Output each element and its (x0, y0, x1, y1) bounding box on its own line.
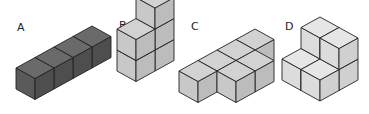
option-a-blocks (16, 26, 111, 100)
option-b: B (117, 0, 174, 82)
option-a-label: A (17, 21, 25, 34)
option-c: C (179, 20, 274, 103)
option-c-blocks (179, 29, 274, 103)
option-d-label: D (285, 20, 293, 33)
option-b-blocks (117, 0, 174, 82)
option-d: D (282, 17, 358, 101)
option-c-label: C (191, 20, 199, 33)
block-figures-diagram: A B C D (0, 0, 369, 114)
option-a: A (16, 21, 111, 100)
